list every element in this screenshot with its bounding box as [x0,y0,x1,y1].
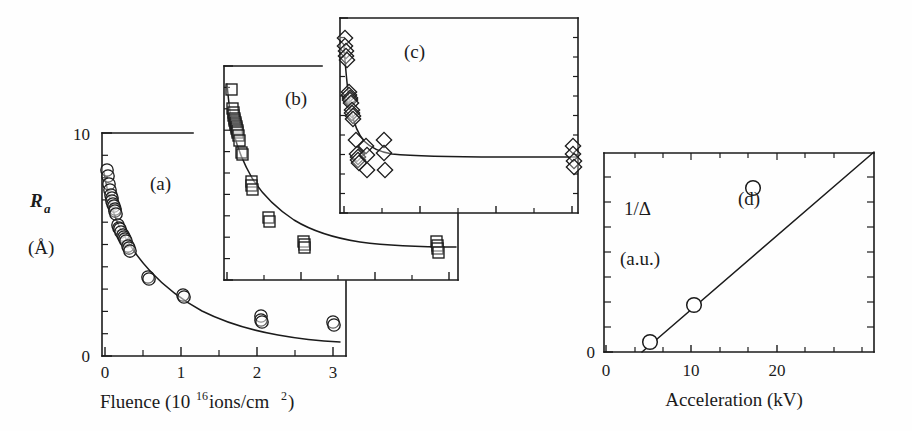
panel-c: (c) [337,18,581,213]
panel-a-xtick-1: 1 [177,363,186,382]
x-axis-title-close-paren: ) [288,391,294,413]
figure-root: (a) 10 0 R a (Å) 0 1 2 3 Fluence (10 16 … [0,0,912,431]
panel-a-y-axis-title: R a (Å) [28,190,54,259]
y-axis-title-subscript-a: a [44,201,51,216]
y-axis-unit-angstrom: (Å) [28,237,54,259]
panel-d-x-axis-title: Acceleration (kV) [665,389,803,411]
panel-d-ylabel-line1: 1/Δ [624,198,651,219]
panel-a-x-axis-title: Fluence (10 16 ions/cm 2 ) [100,389,294,413]
y-axis-title-R: R [29,190,43,211]
panel-a-xtick-0: 0 [101,363,110,382]
panel-a-label: (a) [150,173,171,195]
x-axis-title-exponent-2: 2 [281,389,287,403]
panel-d-ytick-0: 0 [587,343,596,362]
x-axis-title-exponent-16: 16 [196,389,208,403]
x-axis-title-mid: ions/cm [209,391,269,412]
panel-a-ytick-0: 0 [82,347,91,366]
multi-panel-figure: (a) 10 0 R a (Å) 0 1 2 3 Fluence (10 16 … [0,0,912,431]
x-axis-title-prefix: Fluence (10 [100,391,190,413]
panel-c-plot-area [340,18,578,213]
panel-d-ylabel-line2: (a.u.) [620,248,660,270]
panel-d-xtick-20: 20 [769,361,786,380]
panel-a-ytick-10: 10 [73,125,90,144]
panel-c-label: (c) [404,41,425,63]
panel-d-label: (d) [738,188,760,210]
panel-a-xtick-2: 2 [253,363,262,382]
panel-d: (d) 1/Δ (a.u.) 0 0 10 20 Acceleration (k… [587,152,875,411]
panel-d-xtick-0: 0 [602,361,611,380]
panel-b-label: (b) [285,88,307,110]
panel-a-xtick-3: 3 [329,363,338,382]
panel-d-xtick-10: 10 [683,361,700,380]
